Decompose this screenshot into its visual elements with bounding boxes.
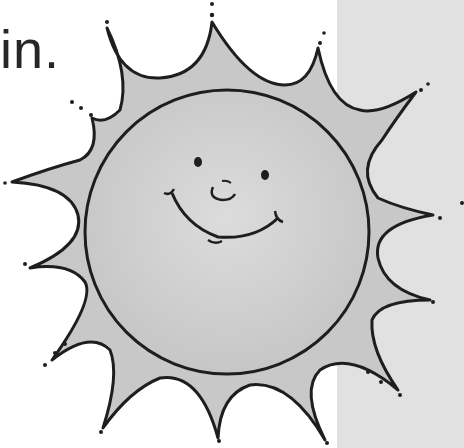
right-eye-icon xyxy=(261,170,269,180)
sun-face-circle xyxy=(85,90,369,374)
sun-illustration-icon xyxy=(0,0,464,448)
left-eye-icon xyxy=(194,157,202,167)
